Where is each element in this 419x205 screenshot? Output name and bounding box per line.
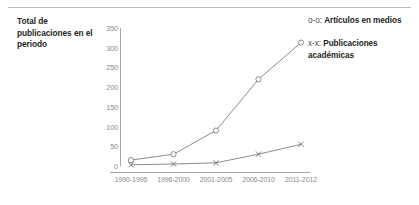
x-axis-tick: 2001-2005 [200, 176, 233, 183]
x-axis-tick: 2006-2010 [242, 176, 275, 183]
cross-marker-icon: x-x: [308, 39, 323, 48]
x-axis-tick: 1990-1995 [115, 176, 148, 183]
circle-marker-icon: o-o: [308, 16, 324, 25]
y-axis-tick: 100 [94, 122, 118, 131]
data-point-circle [128, 158, 133, 163]
legend-item-1: o-o: Artículos en medios [308, 15, 413, 26]
data-point-circle [256, 77, 261, 82]
top-divider [8, 7, 411, 8]
series-2 [128, 142, 303, 168]
y-axis-tick-labels: 050100150200250300350 [92, 28, 118, 166]
legend-label: Artículos en medios [324, 16, 401, 25]
legend-item-2: x-x: Publicaciones académicas [308, 38, 413, 61]
y-axis-tick: 300 [94, 43, 118, 52]
series-layer [120, 28, 320, 172]
data-point-circle [298, 40, 303, 45]
data-point-circle [213, 128, 218, 133]
x-axis-line [110, 172, 310, 173]
y-axis-tick: 200 [94, 83, 118, 92]
y-axis-title: Total de publicaciones en el periodo [17, 16, 103, 51]
chart-legend: o-o: Artículos en mediosx-x: Publicacion… [308, 15, 413, 73]
series-line [131, 144, 301, 165]
chart-figure: Total de publicaciones en el periodo 050… [0, 0, 419, 205]
plot-area [120, 28, 320, 172]
y-axis-tick: 150 [94, 102, 118, 111]
data-point-circle [171, 152, 176, 157]
x-axis-tick: 1996-2000 [157, 176, 190, 183]
y-axis-tick: 0 [94, 162, 118, 171]
y-axis-tick: 50 [94, 142, 118, 151]
y-axis-tick: 250 [94, 63, 118, 72]
series-1 [128, 40, 303, 163]
series-line [131, 43, 301, 161]
x-axis-tick-labels: 1990-19951996-20002001-20052006-20102011… [120, 176, 320, 190]
y-axis-tick: 350 [94, 24, 118, 33]
x-axis-tick: 2011-2012 [285, 176, 317, 183]
